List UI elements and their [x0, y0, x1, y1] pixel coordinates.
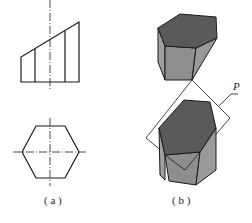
top-view — [13, 118, 86, 186]
plane-label: P — [233, 80, 240, 92]
panel-a-label: ( a ) — [44, 194, 62, 206]
front-view — [21, 0, 79, 91]
upper-prism — [158, 14, 217, 80]
panel-b-label: ( b ) — [172, 194, 190, 206]
figure-canvas — [0, 0, 252, 223]
